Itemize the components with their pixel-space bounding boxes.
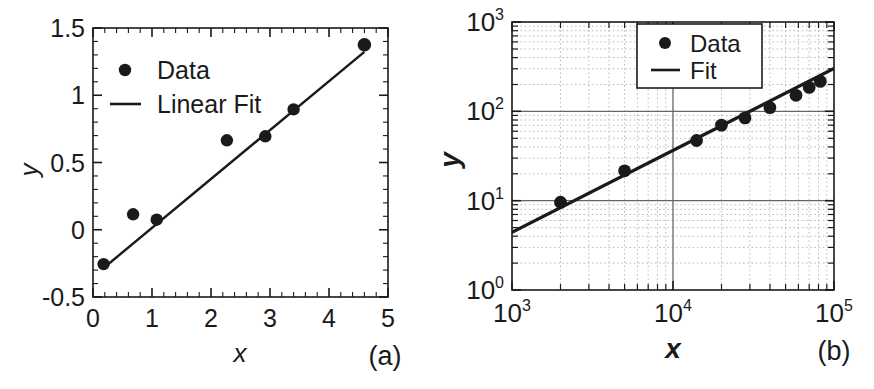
legend-label-data: Data bbox=[157, 56, 210, 84]
panel-b-y-axis-title: y bbox=[437, 151, 465, 170]
data-point bbox=[221, 134, 233, 146]
data-point bbox=[618, 164, 631, 177]
panel-a-plot: -0.5 0 0.5 1 1.5 0 1 2 3 4 5 y x (a) bbox=[0, 0, 437, 389]
data-point bbox=[690, 134, 703, 147]
panel-a-fit-line bbox=[104, 52, 365, 268]
y-tick-label: 102 bbox=[466, 95, 504, 126]
panel-b-tag: (b) bbox=[818, 336, 851, 366]
panel-a: -0.5 0 0.5 1 1.5 0 1 2 3 4 5 y x (a) bbox=[0, 0, 437, 389]
legend-marker-data bbox=[119, 64, 131, 76]
panel-b-legend: Data Fit bbox=[637, 24, 762, 88]
legend-marker-data bbox=[659, 37, 671, 49]
figure-container: -0.5 0 0.5 1 1.5 0 1 2 3 4 5 y x (a) bbox=[0, 0, 874, 389]
data-point bbox=[97, 258, 109, 270]
data-point bbox=[814, 75, 827, 88]
x-tick-label: 4 bbox=[322, 304, 336, 332]
y-tick-label: 101 bbox=[466, 185, 504, 216]
data-point bbox=[287, 103, 299, 115]
legend-label-fit: Fit bbox=[690, 57, 717, 84]
y-tick-label: 0 bbox=[71, 216, 85, 244]
data-point bbox=[259, 130, 271, 142]
panel-a-tag: (a) bbox=[369, 341, 402, 371]
data-point bbox=[715, 119, 728, 132]
y-tick-label: -0.5 bbox=[42, 283, 85, 311]
x-tick-label: 2 bbox=[204, 304, 218, 332]
legend-label-fit: Linear Fit bbox=[157, 90, 261, 118]
x-tick-label: 3 bbox=[263, 304, 277, 332]
data-point bbox=[554, 196, 567, 209]
panel-a-data-points bbox=[97, 38, 371, 270]
data-point bbox=[803, 81, 816, 94]
y-tick-label: 0.5 bbox=[50, 149, 85, 177]
x-tick-label: 5 bbox=[381, 304, 395, 332]
x-tick-label: 103 bbox=[493, 297, 531, 328]
panel-b-x-axis-title: x bbox=[663, 333, 682, 364]
x-tick-label: 1 bbox=[145, 304, 159, 332]
y-tick-label: 1 bbox=[71, 81, 85, 109]
x-tick-label: 104 bbox=[654, 297, 692, 328]
data-point bbox=[739, 112, 752, 125]
data-point bbox=[127, 208, 139, 220]
panel-a-legend: Data Linear Fit bbox=[110, 56, 261, 118]
panel-a-y-axis-title: y bbox=[14, 162, 44, 179]
panel-b-plot: 100 101 102 103 103 104 105 y x (b) bbox=[437, 0, 874, 389]
data-point bbox=[358, 38, 372, 52]
x-tick-label: 105 bbox=[815, 297, 853, 328]
panel-a-y-tick-labels: -0.5 0 0.5 1 1.5 bbox=[42, 14, 85, 311]
panel-a-y-minor-ticks bbox=[93, 41, 388, 283]
panel-a-x-axis-title: x bbox=[232, 338, 248, 368]
y-tick-label: 103 bbox=[466, 6, 504, 37]
legend-label-data: Data bbox=[690, 30, 741, 57]
data-point bbox=[790, 89, 803, 102]
data-point bbox=[151, 214, 163, 226]
panel-b: 100 101 102 103 103 104 105 y x (b) bbox=[437, 0, 874, 389]
panel-a-x-minor-ticks bbox=[105, 28, 376, 297]
x-tick-label: 0 bbox=[86, 304, 100, 332]
panel-a-x-tick-labels: 0 1 2 3 4 5 bbox=[86, 304, 395, 332]
y-tick-label: 1.5 bbox=[50, 14, 85, 42]
panel-b-y-tick-labels: 100 101 102 103 bbox=[466, 6, 504, 305]
panel-b-x-tick-labels: 103 104 105 bbox=[493, 297, 853, 328]
data-point bbox=[764, 101, 777, 114]
